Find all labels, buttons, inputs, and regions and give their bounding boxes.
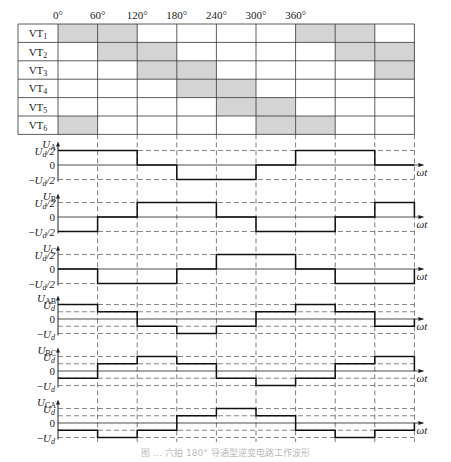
- on-cell: [256, 98, 296, 116]
- omega-t-label: ωt: [416, 218, 428, 230]
- figure-caption: 图 … 六拍 180° 导通型逆变电路工作波形: [0, 446, 451, 459]
- y-axis-arrow-icon: [56, 348, 60, 353]
- level-label: 0: [50, 211, 56, 223]
- level-label: −Ud/2: [28, 226, 55, 240]
- waveform-uca: UCAωtUd0−Ud: [37, 396, 428, 446]
- angle-label: 240°: [206, 9, 227, 21]
- omega-t-label: ωt: [416, 320, 428, 332]
- level-label: −Ud/2: [28, 278, 55, 292]
- angle-label: 180°: [166, 9, 187, 21]
- level-label: −Ud: [37, 380, 56, 394]
- angle-label: 300°: [246, 9, 267, 21]
- switch-label-vt6: VT6: [29, 119, 48, 133]
- waveform-trace: [58, 203, 414, 232]
- on-cell: [296, 24, 336, 42]
- level-label: −Ud: [37, 328, 56, 342]
- on-cell: [256, 116, 296, 134]
- level-label: 0: [50, 313, 56, 325]
- level-label: −Ud: [37, 432, 56, 446]
- on-cell: [375, 61, 415, 79]
- switch-label-vt5: VT5: [29, 101, 48, 115]
- angle-labels: 0°60°120°180°240°300°360°: [53, 9, 306, 21]
- switch-label-vt2: VT2: [29, 46, 48, 60]
- angle-label: 360°: [285, 9, 306, 21]
- on-cell: [98, 42, 138, 60]
- omega-t-label: ωt: [416, 270, 428, 282]
- switch-label-vt4: VT4: [29, 82, 48, 96]
- on-cell: [137, 61, 177, 79]
- on-cell: [296, 116, 336, 134]
- switch-state-table: VT1VT2VT3VT4VT5VT6: [18, 24, 414, 134]
- y-axis-arrow-icon: [56, 246, 60, 251]
- on-cell: [177, 61, 217, 79]
- switch-label-vt3: VT3: [29, 64, 48, 78]
- omega-t-label: ωt: [416, 166, 428, 178]
- on-cell: [58, 116, 98, 134]
- on-cell: [58, 24, 98, 42]
- level-label: 0: [50, 417, 56, 429]
- level-label: −Ud/2: [28, 174, 55, 188]
- waveform-ua: UAωtUd/20−Ud/2: [28, 138, 428, 188]
- level-label: 0: [50, 159, 56, 171]
- omega-t-label: ωt: [416, 372, 428, 384]
- y-axis-arrow-icon: [56, 194, 60, 199]
- y-axis-arrow-icon: [56, 142, 60, 147]
- on-cell: [137, 42, 177, 60]
- on-cell: [216, 79, 256, 97]
- on-cell: [335, 24, 375, 42]
- on-cell: [216, 98, 256, 116]
- on-cell: [98, 24, 138, 42]
- waveform-ub: UBωtUd/20−Ud/2: [28, 190, 428, 240]
- level-label: 0: [50, 263, 56, 275]
- angle-label: 60°: [90, 9, 105, 21]
- waveform-plots: UAωtUd/20−Ud/2UBωtUd/20−Ud/2UCωtUd/20−Ud…: [28, 134, 428, 445]
- y-axis-arrow-icon: [56, 400, 60, 405]
- switch-label-vt1: VT1: [29, 27, 48, 41]
- on-cell: [335, 42, 375, 60]
- level-label: 0: [50, 365, 56, 377]
- on-cell: [375, 42, 415, 60]
- angle-label: 120°: [127, 9, 148, 21]
- waveform-ubc: UBCωtUd0−Ud: [37, 344, 428, 394]
- omega-t-label: ωt: [416, 424, 428, 436]
- on-cell: [177, 79, 217, 97]
- angle-label: 0°: [53, 9, 63, 21]
- waveform-uab: UABωtUd0−Ud: [37, 292, 428, 342]
- inverter-waveform-diagram: 0°60°120°180°240°300°360° VT1VT2VT3VT4VT…: [0, 0, 451, 462]
- waveform-uc: UCωtUd/20−Ud/2: [28, 242, 428, 292]
- y-axis-arrow-icon: [56, 296, 60, 301]
